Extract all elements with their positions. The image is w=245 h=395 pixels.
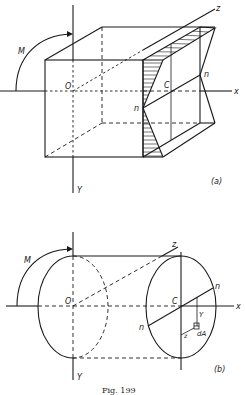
figure-b: M O C n n x Y z Y z dA (b) bbox=[6, 232, 241, 382]
label-moment-b: M bbox=[24, 256, 31, 265]
label-y-distance: Y bbox=[199, 311, 204, 319]
label-origin-b: O bbox=[65, 297, 71, 306]
label-y-b: Y bbox=[77, 373, 83, 382]
stress-hatch-line bbox=[179, 39, 196, 40]
box-hidden-bottom-diagonal bbox=[45, 123, 102, 157]
label-n1-b: n bbox=[139, 323, 144, 332]
stress-hatch-line bbox=[172, 44, 190, 45]
left-end-hidden bbox=[73, 256, 108, 358]
label-z-a: z bbox=[215, 4, 221, 13]
label-x-b: x bbox=[235, 302, 241, 311]
figure-a: M O C n n x Y z (a) bbox=[0, 4, 239, 195]
neutral-axis-a bbox=[143, 75, 200, 108]
label-origin-a: O bbox=[65, 82, 71, 91]
label-x-a: x bbox=[233, 87, 239, 96]
z-axis-a-hidden bbox=[73, 50, 143, 91]
moment-arrow-a bbox=[16, 34, 71, 91]
label-z-b: z bbox=[171, 240, 177, 249]
stress-hatch-line bbox=[193, 31, 209, 32]
label-y-a: Y bbox=[77, 186, 83, 195]
stress-back-upper-line bbox=[200, 28, 215, 75]
label-centroid-b: C bbox=[172, 297, 178, 306]
label-n2-b: n bbox=[215, 282, 220, 291]
label-area-element: dA bbox=[197, 330, 206, 338]
box-front-face bbox=[45, 60, 143, 157]
label-z-distance: z bbox=[183, 332, 188, 339]
figure-canvas: M O C n n x Y z (a) bbox=[0, 0, 245, 395]
moment-arrowhead-a bbox=[67, 31, 73, 37]
figure-tag-b: (b) bbox=[214, 365, 225, 374]
label-centroid-a: C bbox=[164, 81, 170, 90]
label-n2-a: n bbox=[204, 70, 209, 79]
figure-caption: Fig. 199 bbox=[102, 386, 136, 395]
moment-arrowhead-b bbox=[67, 246, 73, 252]
z-distance-line bbox=[181, 328, 194, 335]
stress-back-lower-line bbox=[200, 75, 215, 123]
figure-tag-a: (a) bbox=[211, 177, 222, 186]
left-end-visible bbox=[38, 256, 73, 358]
stress-front-lower-line bbox=[143, 108, 163, 157]
z-axis-b-hidden bbox=[73, 256, 162, 306]
label-n1-a: n bbox=[134, 104, 139, 113]
label-moment-a: M bbox=[18, 47, 25, 56]
